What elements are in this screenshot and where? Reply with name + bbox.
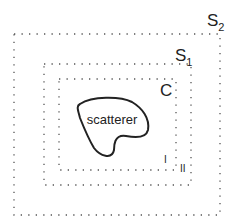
diagram-canvas: scatterer S2 S1 C I II <box>0 0 235 224</box>
scattering-diagram: scatterer S2 S1 C I II <box>0 0 235 224</box>
scatterer-label: scatterer <box>87 112 138 127</box>
surface-s2-label: S2 <box>207 11 224 33</box>
region-ii-label: II <box>180 163 186 174</box>
region-i-label: I <box>164 154 167 165</box>
surface-s1-label: S1 <box>175 46 192 68</box>
contour-c-label: C <box>160 81 172 100</box>
